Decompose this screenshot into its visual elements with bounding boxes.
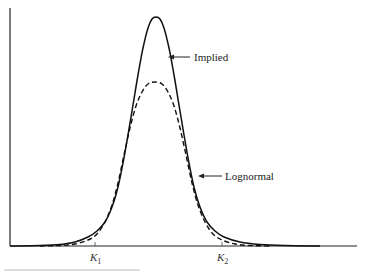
tick-label-2: K2 <box>216 251 228 266</box>
lognormal-curve <box>40 82 270 246</box>
chart: K1K2 ImpliedLognormal <box>0 0 369 273</box>
implied-label: Implied <box>194 51 229 63</box>
axes <box>10 8 357 246</box>
tick-label-1: K1 <box>89 251 101 266</box>
lognormal-label: Lognormal <box>225 170 274 182</box>
annotations: ImpliedLognormal <box>168 51 274 182</box>
lognormal-arrowhead-icon <box>198 174 204 179</box>
implied-curve <box>10 17 320 246</box>
